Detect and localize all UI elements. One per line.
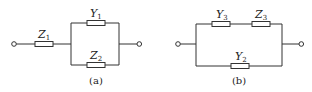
label-z1: Z1 — [37, 28, 50, 42]
label-y2: Y2 — [235, 50, 247, 64]
resistor-y3 — [212, 22, 230, 27]
terminal-b-right — [299, 42, 304, 47]
resistor-y1 — [87, 21, 105, 26]
caption-b: (b) — [232, 75, 246, 86]
label-y3: Y3 — [216, 8, 228, 22]
circuit-diagram: Z1 Y1 Z2 (a) Y3 Z3 Y2 (b) — [0, 0, 312, 92]
terminal-a-right — [137, 42, 142, 47]
label-z3: Z3 — [254, 8, 267, 22]
terminal-a-left — [12, 42, 17, 47]
resistor-z3 — [252, 22, 270, 27]
resistor-y2 — [231, 64, 249, 69]
resistor-z1 — [35, 42, 53, 47]
circuit-a — [12, 21, 142, 68]
resistor-z2 — [87, 63, 105, 68]
terminal-b-left — [176, 42, 181, 47]
label-z2: Z2 — [89, 49, 102, 63]
caption-a: (a) — [89, 75, 103, 86]
label-y1: Y1 — [90, 7, 102, 21]
